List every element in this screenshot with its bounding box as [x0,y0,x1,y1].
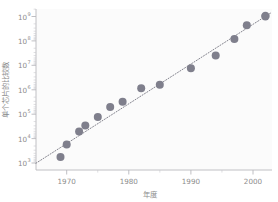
moores-law-chart-figure: 10 9 10 8 10 7 10 6 10 5 10 4 [0,0,278,202]
y-axis-title: 单个芯片的比较数 [1,61,10,118]
x-tick-label-1970: 1970 [58,177,77,186]
y-tick-group-1e9: 10 9 [18,11,36,22]
data-point [75,128,83,136]
y-tick-label-1e9-mantissa: 10 [18,13,28,22]
y-tick-group-1e3: 10 3 [18,157,36,168]
x-tick-group-1990: 1990 [182,170,201,186]
y-tick-group-1e7: 10 7 [18,59,36,70]
y-tick-label-1e9-exponent: 9 [28,11,31,17]
data-point [243,21,251,29]
y-tick-group-1e6: 10 6 [18,84,36,95]
data-point [137,84,145,92]
x-tick-group-2000: 2000 [244,170,263,186]
y-tick-label-1e6-exponent: 6 [28,84,31,90]
data-point [57,153,65,161]
y-tick-group-1e5: 10 5 [18,108,36,119]
y-tick-label-1e7-mantissa: 10 [18,61,28,70]
x-tick-group-1980: 1980 [120,170,139,186]
x-axis-title: 年度 [143,190,158,199]
y-tick-label-1e4-mantissa: 10 [18,135,28,144]
y-tick-label-1e6-mantissa: 10 [18,86,28,95]
y-tick-label-1e3-mantissa: 10 [18,159,28,168]
y-tick-group-1e4: 10 4 [18,133,36,144]
y-tick-label-1e8-mantissa: 10 [18,37,28,46]
data-point [81,122,89,130]
chart-canvas: 10 9 10 8 10 7 10 6 10 5 10 4 [0,0,278,202]
x-tick-label-2000: 2000 [244,177,263,186]
data-point [119,98,127,106]
y-tick-label-1e4-exponent: 4 [28,133,31,139]
x-tick-label-1990: 1990 [182,177,201,186]
data-point [187,64,195,72]
y-tick-label-1e5-mantissa: 10 [18,110,28,119]
data-point [106,103,114,111]
data-point [230,35,238,43]
data-point [63,141,71,149]
data-point [212,51,220,59]
y-tick-label-1e7-exponent: 7 [28,59,31,65]
y-tick-group-1e8: 10 8 [18,35,36,46]
x-tick-label-1980: 1980 [120,177,139,186]
data-point [94,113,102,121]
y-tick-label-1e5-exponent: 5 [28,108,31,114]
y-tick-label-1e3-exponent: 3 [28,157,31,163]
data-point [156,81,164,89]
y-tick-label-1e8-exponent: 8 [28,35,31,41]
data-point [261,12,270,21]
plot-area-background [36,9,272,170]
x-tick-group-1970: 1970 [58,170,77,186]
